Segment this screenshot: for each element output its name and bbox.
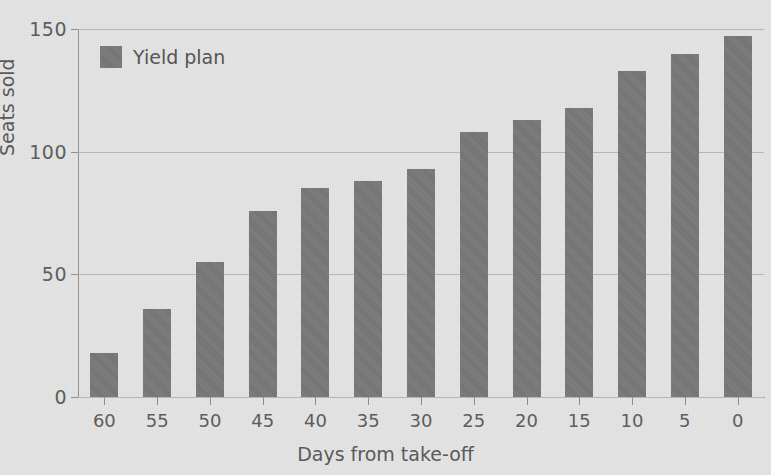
bar (565, 108, 593, 397)
bar (407, 169, 435, 397)
gridline-y (78, 29, 764, 30)
x-axis-tick (632, 397, 633, 405)
x-axis-tick (685, 397, 686, 405)
x-axis-tick-label: 60 (93, 410, 116, 431)
bar (354, 181, 382, 397)
x-axis-tick (527, 397, 528, 405)
chart-legend: Yield plan (100, 46, 225, 68)
x-axis-tick (579, 397, 580, 405)
bar (301, 188, 329, 397)
bar (249, 211, 277, 397)
gridline-y (78, 152, 764, 153)
x-axis-tick-label: 0 (732, 410, 743, 431)
legend-label-yield-plan: Yield plan (133, 46, 225, 68)
x-axis-tick-label: 20 (515, 410, 538, 431)
x-axis-tick (315, 397, 316, 405)
x-axis-tick (421, 397, 422, 405)
x-axis-tick (210, 397, 211, 405)
plot-area: 050100150605550454035302520151050 (78, 29, 764, 397)
y-axis-tick-label: 0 (54, 386, 67, 408)
bar (143, 309, 171, 397)
x-axis-tick (263, 397, 264, 405)
y-axis-tick-label: 150 (29, 18, 67, 40)
y-axis-tick (71, 152, 78, 153)
x-axis-tick-label: 40 (304, 410, 327, 431)
chart-container: Seats sold Days from take-off 0501001506… (0, 0, 771, 475)
x-axis-tick (368, 397, 369, 405)
bar (513, 120, 541, 397)
x-axis-tick (474, 397, 475, 405)
bar (90, 353, 118, 397)
x-axis-tick-label: 10 (621, 410, 644, 431)
x-axis-tick (104, 397, 105, 405)
y-axis-tick-label: 50 (42, 263, 67, 285)
y-axis-tick (71, 29, 78, 30)
bar (724, 36, 752, 397)
x-axis-tick-label: 25 (462, 410, 485, 431)
bar (671, 54, 699, 397)
x-axis-tick-label: 55 (146, 410, 169, 431)
y-axis-tick (71, 397, 78, 398)
x-axis-tick-label: 50 (198, 410, 221, 431)
x-axis-tick-label: 30 (410, 410, 433, 431)
legend-swatch-yield-plan (100, 46, 122, 68)
x-axis-tick-label: 35 (357, 410, 380, 431)
bar (196, 262, 224, 397)
y-axis-title: Seats sold (0, 58, 18, 156)
y-axis-tick (71, 274, 78, 275)
x-axis-tick-label: 45 (251, 410, 274, 431)
x-axis-title: Days from take-off (0, 443, 771, 465)
x-axis-tick-label: 15 (568, 410, 591, 431)
bar (460, 132, 488, 397)
x-axis-tick (157, 397, 158, 405)
y-axis-tick-label: 100 (29, 141, 67, 163)
x-axis-tick (738, 397, 739, 405)
x-axis-tick-label: 5 (679, 410, 690, 431)
bar (618, 71, 646, 397)
